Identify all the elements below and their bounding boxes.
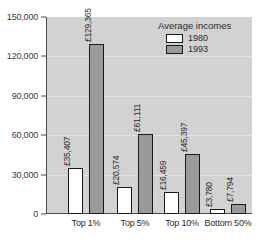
bar-1993-top10: £45,397	[185, 154, 200, 214]
bar-value-label: £16,459	[158, 161, 168, 190]
legend-item-1980: 1980	[166, 33, 231, 43]
legend-swatch-1980	[166, 34, 183, 43]
bar-1980-top5: £20,574	[117, 187, 132, 214]
bar-value-label: £35,407	[62, 136, 72, 165]
x-axis-tick-label: Bottom 50%	[204, 218, 251, 228]
bar-1980-top1: £35,407	[68, 168, 83, 215]
bar-chart: 030,00060,00090,000120,000150,000 £35,40…	[0, 0, 262, 244]
legend-label-1993: 1993	[188, 44, 208, 54]
bar-group: £35,407£129,365	[68, 17, 104, 214]
y-axis-tick-label: 60,000	[12, 130, 38, 140]
bar-value-label: £20,574	[111, 156, 121, 185]
x-axis-tick-label: Top 10%	[165, 218, 199, 228]
bar-value-label: £129,365	[83, 8, 93, 42]
bar-value-label: £45,397	[179, 123, 189, 152]
legend-title: Average incomes	[158, 20, 231, 31]
x-axis-tick-label: Top 1%	[72, 218, 101, 228]
legend-item-1993: 1993	[166, 44, 231, 54]
bar-1993-bottom50: £7,794	[231, 204, 246, 214]
y-axis-tick-label: 120,000	[7, 51, 38, 61]
y-axis-tick-label: 30,000	[12, 170, 38, 180]
x-axis-tick-label: Top 5%	[121, 218, 150, 228]
y-axis-tick-label: 90,000	[12, 91, 38, 101]
x-axis: Top 1%Top 5%Top 10%Bottom 50%	[46, 216, 252, 236]
bar-group: £20,574£61,111	[117, 17, 153, 214]
y-axis-tick-label: 150,000	[7, 12, 38, 22]
legend: Average incomes 1980 1993	[152, 20, 231, 55]
y-axis-tick-label: 0	[33, 209, 38, 219]
bar-value-label: £7,794	[225, 177, 235, 202]
bar-value-label: £61,111	[132, 104, 142, 132]
legend-label-1980: 1980	[188, 33, 208, 43]
bar-1980-top10: £16,459	[164, 192, 179, 214]
y-axis: 030,00060,00090,000120,000150,000	[0, 0, 46, 244]
bar-1993-top5: £61,111	[138, 134, 153, 214]
bar-1980-bottom50: £3,780	[210, 209, 225, 214]
legend-swatch-1993	[166, 45, 183, 54]
bar-value-label: £3,780	[204, 182, 214, 207]
bar-1993-top1: £129,365	[89, 44, 104, 214]
